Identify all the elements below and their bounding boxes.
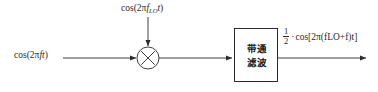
diagram-lines-layer <box>0 0 378 92</box>
one-half-fraction: 1 2 <box>283 27 289 46</box>
output-expr-open: cos[2π( <box>295 32 324 42</box>
output-signal-label: 1 2 ·cos[2π(fLO+f)t] <box>283 27 357 46</box>
input-prefix: cos(2π <box>14 50 39 60</box>
lo-prefix: cos(2π <box>121 3 146 13</box>
lo-subscript: LO <box>149 7 157 14</box>
output-subscript: LO <box>327 32 340 42</box>
output-expr-close: ] <box>354 32 357 42</box>
signal-flow-diagram: cos(2πft) cos(2πfLOt) 带通 滤波 1 2 ·cos[2π(… <box>0 0 378 92</box>
fraction-denominator: 2 <box>283 37 289 46</box>
input-suffix: ) <box>45 50 48 60</box>
local-oscillator-label: cos(2πfLOt) <box>121 4 163 14</box>
bandpass-filter-block: 带通 滤波 <box>234 28 278 82</box>
filter-label-line1: 带通 <box>247 42 268 56</box>
input-signal-label: cos(2πft) <box>14 51 48 61</box>
fraction-numerator: 1 <box>283 27 289 36</box>
lo-suffix: ) <box>160 3 163 13</box>
filter-block-text: 带通 滤波 <box>235 29 279 83</box>
output-dot: · <box>291 32 294 42</box>
filter-label-line2: 滤波 <box>247 56 268 70</box>
